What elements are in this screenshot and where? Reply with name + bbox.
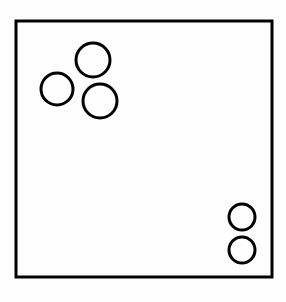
diagram-canvas [0,0,286,302]
canvas-background [0,0,286,302]
figure-svg [0,0,286,302]
